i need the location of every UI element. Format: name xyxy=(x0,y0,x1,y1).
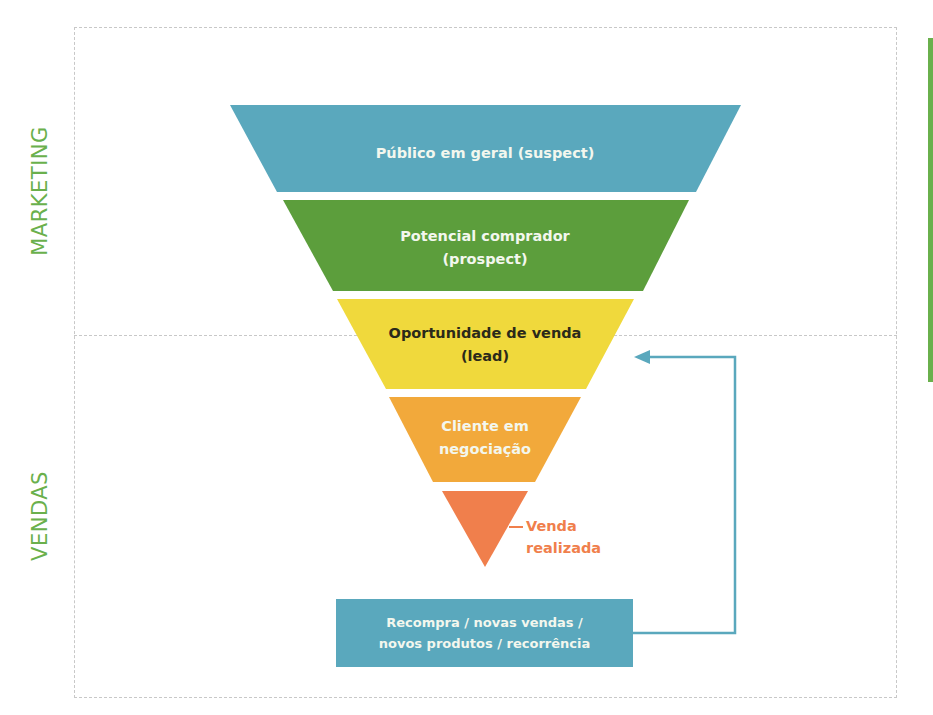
stage-suspect-label: Público em geral (suspect) xyxy=(330,142,640,165)
recompra-feedback-connector xyxy=(633,357,735,633)
stage-lead-label: Oportunidade de venda (lead) xyxy=(330,322,640,368)
recompra-box: Recompra / novas vendas / novos produtos… xyxy=(336,599,633,667)
stage-prospect-label: Potencial comprador (prospect) xyxy=(330,225,640,271)
stage-venda-shape xyxy=(442,491,528,567)
stage-venda-label: Venda realizada xyxy=(526,515,601,559)
stage-negociacao-label: Cliente em negociação xyxy=(400,415,570,461)
